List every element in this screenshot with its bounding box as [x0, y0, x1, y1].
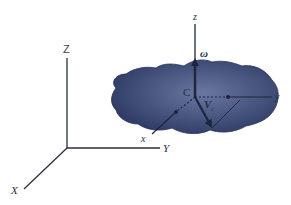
- global-z-label: Z: [63, 43, 70, 55]
- local-x-label: x: [140, 133, 146, 144]
- center-of-mass-label: C: [183, 86, 190, 98]
- local-y-label: y: [274, 91, 280, 102]
- rigid-body-diagram: Z Y X z y x C ω Vc: [0, 0, 291, 205]
- global-y-label: Y: [163, 142, 171, 154]
- local-z-label: z: [192, 11, 197, 22]
- angular-velocity-label: ω: [200, 47, 208, 59]
- global-x-axis: [24, 148, 67, 189]
- global-x-label: X: [10, 184, 19, 196]
